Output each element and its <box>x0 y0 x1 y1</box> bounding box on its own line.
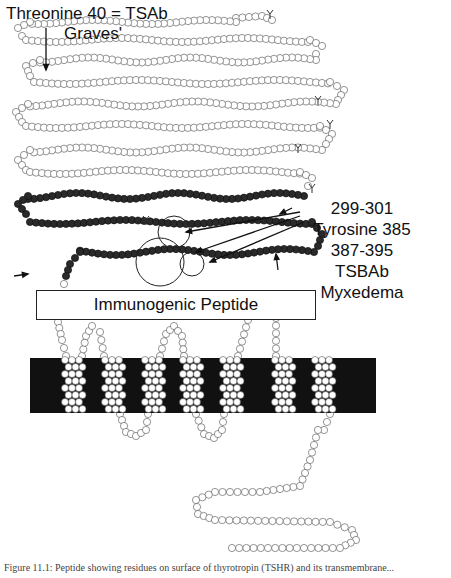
label-graves: Graves' <box>64 24 122 44</box>
immunogenic-peptide-label: Immunogenic Peptide <box>94 295 258 315</box>
label-tyrosine-385: Tyrosine 385 <box>302 219 422 240</box>
label-threonine-40: Threonine 40 = TSAb <box>6 4 168 24</box>
label-epitopes: 299-301 Tyrosine 385 387-395 TSBAb Myxed… <box>302 198 422 303</box>
immunogenic-peptide-box: Immunogenic Peptide <box>36 290 316 320</box>
membrane-band <box>30 357 376 414</box>
label-tsbab: TSBAb <box>302 261 422 282</box>
label-387-395: 387-395 <box>302 240 422 261</box>
label-myxedema: Myxedema <box>302 282 422 303</box>
label-299-301: 299-301 <box>302 198 422 219</box>
figure-caption: Figure 11.1: Peptide showing residues on… <box>4 562 451 573</box>
